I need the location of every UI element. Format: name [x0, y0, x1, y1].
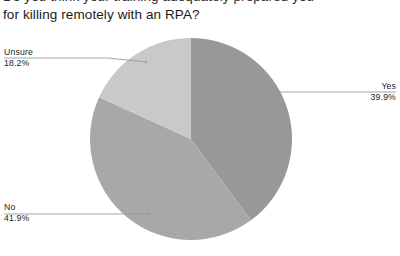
callout-yes-percent: 39.9% [371, 92, 396, 103]
callout-unsure-label: Unsure [4, 47, 33, 58]
callout-no: No 41.9% [4, 202, 29, 225]
pie-chart-svg [0, 0, 400, 256]
callout-unsure: Unsure 18.2% [4, 47, 33, 70]
pie-chart: Unsure 18.2% Yes 39.9% No 41.9% [0, 0, 400, 256]
callout-yes: Yes 39.9% [371, 81, 396, 104]
callout-unsure-percent: 18.2% [4, 58, 33, 69]
callout-yes-label: Yes [371, 81, 396, 92]
callout-no-percent: 41.9% [4, 213, 29, 224]
callout-no-label: No [4, 202, 29, 213]
